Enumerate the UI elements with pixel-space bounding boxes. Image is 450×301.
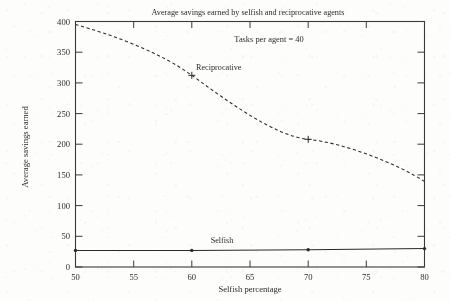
x-tick-label: 75 [362,272,371,282]
y-tick-label: 50 [61,231,70,241]
y-tick-labels: 400 350 300 250 200 150 100 50 0 [57,17,70,273]
x-axis-ticks [76,22,425,268]
x-tick-label: 50 [71,272,80,282]
reciprocative-line [76,25,425,182]
y-tick-label: 250 [57,109,70,119]
chart-title: Average savings earned by selfish and re… [152,8,345,17]
selfish-line [76,249,425,251]
x-tick-label: 70 [304,272,313,282]
x-tick-label: 60 [188,272,197,282]
series-reciprocative: Reciprocative [76,25,425,182]
y-tick-label: 300 [57,78,70,88]
x-tick-label: 55 [129,272,138,282]
y-tick-label: 150 [57,170,70,180]
y-tick-label: 0 [66,262,70,272]
x-tick-label: 65 [246,272,255,282]
y-tick-label: 100 [57,201,70,211]
line-chart: 400 350 300 250 200 150 100 50 0 50 55 6… [0,0,450,301]
x-tick-label: 80 [420,272,429,282]
y-axis-ticks [76,22,425,268]
y-tick-label: 400 [57,17,70,27]
series-label-reciprocative: Reciprocative [196,63,242,72]
chart-canvas: 400 350 300 250 200 150 100 50 0 50 55 6… [0,0,450,301]
x-axis-label: Selfish percentage [218,284,281,294]
plot-frame [76,22,425,268]
y-tick-label: 350 [57,47,70,57]
x-tick-labels: 50 55 60 65 70 75 80 [71,272,429,282]
y-tick-label: 200 [57,139,70,149]
series-selfish: Selfish [74,236,426,252]
y-axis-label: Average savings earned [20,106,30,188]
reciprocative-markers [188,72,311,143]
series-label-selfish: Selfish [211,236,234,245]
annotation-tasks-per-agent: Tasks per agent = 40 [234,35,303,44]
